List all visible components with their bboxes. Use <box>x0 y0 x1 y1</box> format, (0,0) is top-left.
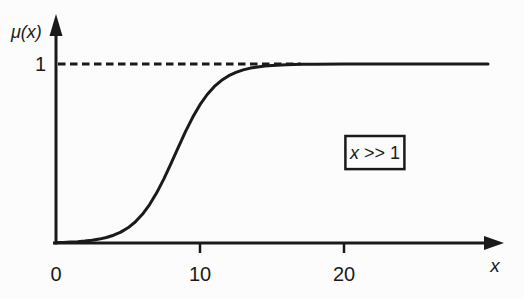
x-tick-label: 20 <box>333 263 355 285</box>
x-tick-labels: 01020 <box>50 263 355 285</box>
membership-chart: 01020 1 μ(x) x x >> 1 <box>0 0 524 298</box>
x-tick-label: 10 <box>189 263 211 285</box>
y-axis-label: μ(x) <box>10 22 42 42</box>
x-axis-arrowhead <box>484 236 504 250</box>
y-tick-label: 1 <box>35 53 46 75</box>
annotation-label: x >> 1 <box>349 143 400 163</box>
figure-canvas: 01020 1 μ(x) x x >> 1 <box>0 0 524 298</box>
y-axis-arrowhead <box>50 14 63 36</box>
membership-curve <box>56 64 488 243</box>
x-axis-label: x <box>489 255 501 276</box>
x-tick-label: 0 <box>50 263 61 285</box>
annotation-operator-value: >> 1 <box>359 143 400 163</box>
